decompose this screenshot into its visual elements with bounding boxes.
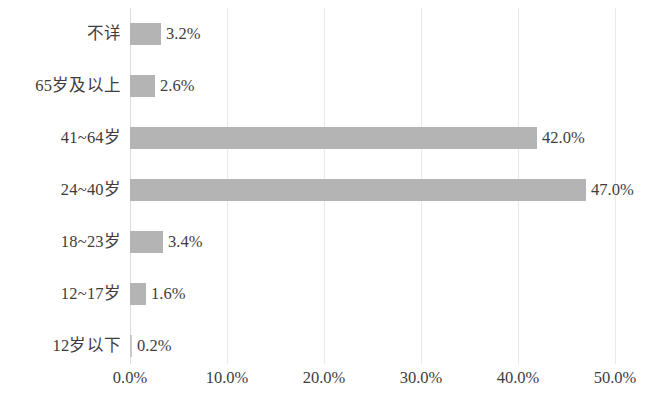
- value-label: 47.0%: [586, 182, 634, 199]
- bar: [130, 231, 163, 253]
- category-label: 18~23岁: [1, 234, 130, 251]
- bar-row: 18~23岁 3.4%: [130, 216, 650, 268]
- bar-row: 不详 3.2%: [130, 8, 650, 60]
- x-tick-label: 20.0%: [303, 370, 346, 387]
- bar: [130, 75, 155, 97]
- plot-area: 不详 3.2% 65岁及以上 2.6% 41~64岁 42.0% 24~40岁 …: [130, 8, 615, 364]
- category-label: 不详: [1, 26, 130, 43]
- value-label: 1.6%: [146, 286, 185, 303]
- x-tick-label: 40.0%: [497, 370, 540, 387]
- category-label: 41~64岁: [1, 130, 130, 147]
- x-axis: 0.0% 10.0% 20.0% 30.0% 40.0% 50.0%: [130, 370, 615, 394]
- x-tick-label: 30.0%: [400, 370, 443, 387]
- value-label: 42.0%: [537, 130, 585, 147]
- bar-row: 65岁及以上 2.6%: [130, 60, 650, 112]
- category-label: 65岁及以上: [1, 78, 130, 95]
- bar-row: 12~17岁 1.6%: [130, 268, 650, 320]
- value-label: 3.4%: [163, 234, 202, 251]
- bar: [130, 283, 146, 305]
- bar: [130, 23, 161, 45]
- value-label: 0.2%: [132, 338, 171, 355]
- bar-chart: 不详 3.2% 65岁及以上 2.6% 41~64岁 42.0% 24~40岁 …: [0, 0, 650, 404]
- bar-row: 41~64岁 42.0%: [130, 112, 650, 164]
- bar: [130, 127, 537, 149]
- category-label: 12岁以下: [1, 338, 130, 355]
- bar-row: 12岁以下 0.2%: [130, 320, 650, 372]
- value-label: 2.6%: [155, 78, 194, 95]
- value-label: 3.2%: [161, 26, 200, 43]
- x-tick-label: 0.0%: [113, 370, 147, 387]
- bar: [130, 179, 586, 201]
- x-tick-label: 50.0%: [594, 370, 637, 387]
- category-label: 24~40岁: [1, 182, 130, 199]
- x-tick-label: 10.0%: [206, 370, 249, 387]
- bar-row: 24~40岁 47.0%: [130, 164, 650, 216]
- category-label: 12~17岁: [1, 286, 130, 303]
